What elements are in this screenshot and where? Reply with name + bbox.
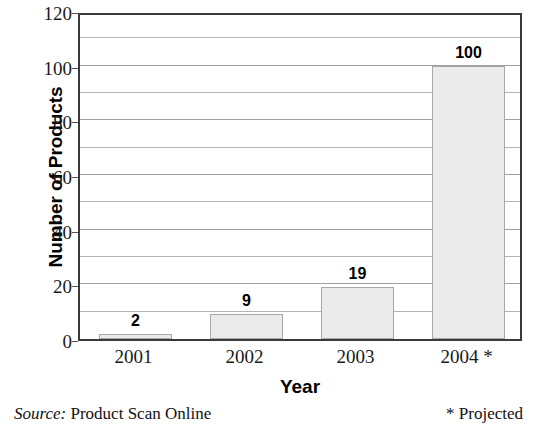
y-axis-tick-group: 020406080100120 (24, 13, 72, 341)
x-axis-tick-group: 2001200220032004 * (78, 346, 522, 376)
y-tick-label: 60 (28, 168, 72, 187)
bar-chart-figure: Number of Products 020406080100120 29191… (0, 0, 535, 432)
x-tick-label: 2003 (300, 346, 411, 368)
bar[interactable] (432, 66, 504, 339)
y-tick-mark (72, 341, 78, 342)
source-note: Source: Product Scan Online (14, 404, 211, 424)
source-value: Product Scan Online (71, 404, 212, 423)
source-label: Source: (14, 404, 66, 423)
x-axis-title: Year (78, 376, 522, 398)
plot-area: 2919100 (78, 13, 522, 341)
y-tick-label: 120 (28, 4, 72, 23)
y-tick-label: 20 (28, 277, 72, 296)
bar-value-label: 9 (210, 292, 282, 310)
bar-value-label: 19 (321, 265, 393, 283)
bar[interactable] (99, 334, 171, 339)
projected-note: * Projected (446, 404, 523, 424)
x-tick-label: 2001 (78, 346, 189, 368)
y-tick-label: 80 (28, 113, 72, 132)
y-tick-label: 40 (28, 223, 72, 242)
y-tick-label: 0 (28, 332, 72, 351)
y-tick-label: 100 (28, 59, 72, 78)
bars-layer: 2919100 (80, 15, 520, 339)
bar[interactable] (210, 314, 282, 339)
x-tick-label: 2002 (189, 346, 300, 368)
bar[interactable] (321, 287, 393, 339)
x-tick-label: 2004 * (411, 346, 522, 368)
bar-value-label: 100 (432, 44, 504, 62)
bar-value-label: 2 (99, 312, 171, 330)
